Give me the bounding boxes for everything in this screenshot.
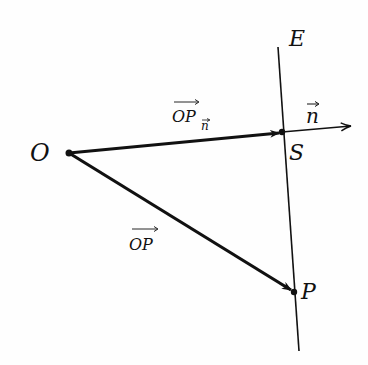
diagram-svg: O E S P n OP n OP (0, 0, 368, 365)
point-p (291, 289, 297, 295)
label-p: P (300, 279, 317, 304)
diagram-canvas: O E S P n OP n OP (0, 0, 368, 365)
point-o (66, 150, 73, 157)
vector-op (69, 153, 291, 290)
vector-op-n (69, 133, 279, 153)
point-s (279, 129, 285, 135)
label-op: OP (129, 235, 153, 254)
plane-e-line (278, 47, 299, 351)
label-o: O (30, 139, 50, 167)
label-s: S (289, 140, 304, 165)
label-n: n (306, 104, 319, 128)
label-op-n-main: OP (172, 107, 196, 126)
label-e: E (288, 26, 305, 51)
